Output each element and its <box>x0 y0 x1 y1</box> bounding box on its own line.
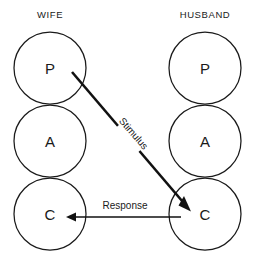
husband-child-label: C <box>200 206 211 223</box>
wife-child-label: C <box>45 206 56 223</box>
column-header-wife: WIFE <box>37 9 63 20</box>
husband-adult-label: A <box>200 133 210 150</box>
column-header-husband: HUSBAND <box>180 9 231 20</box>
response-label: Response <box>102 200 147 211</box>
wife-parent-label: P <box>45 60 55 77</box>
diagram-canvas: WIFE HUSBAND P A C P A C Stimulus <box>0 0 253 273</box>
husband-parent-label: P <box>200 60 210 77</box>
wife-adult-label: A <box>45 133 55 150</box>
transactional-analysis-diagram: WIFE HUSBAND P A C P A C Stimulus <box>0 0 253 273</box>
